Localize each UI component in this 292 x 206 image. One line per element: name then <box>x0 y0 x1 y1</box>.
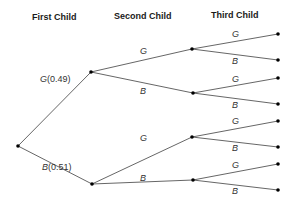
header-second-child: Second Child <box>114 11 172 21</box>
leaf-node <box>276 76 280 80</box>
label-third-child-g: G <box>232 29 239 39</box>
leaf-node <box>276 162 280 166</box>
second-child-node <box>191 91 195 95</box>
label-third-child-b: B <box>232 100 238 110</box>
second-child-node <box>190 47 194 51</box>
label-first-child-g: G(0.49) <box>40 74 71 84</box>
probability-tree-diagram: First Child Second Child Third Child G(0… <box>0 0 292 206</box>
root-node <box>16 144 20 148</box>
label-third-child-g: G <box>232 116 239 126</box>
first-child-node <box>89 70 93 74</box>
label-third-child-b: B <box>232 143 238 153</box>
leaf-node <box>276 119 280 123</box>
label-third-child-g: G <box>232 160 239 170</box>
second-child-node <box>190 135 194 139</box>
label-third-child-b: B <box>232 186 238 196</box>
label-first-child-b: B(0.51) <box>42 162 72 172</box>
label-third-child-b: B <box>232 56 238 66</box>
label-third-child-g: G <box>232 74 239 84</box>
leaf-node <box>276 188 280 192</box>
header-third-child: Third Child <box>211 10 259 20</box>
first-child-node <box>90 182 94 186</box>
label-second-child-b: B <box>140 86 146 96</box>
leaf-node <box>276 58 280 62</box>
second-child-node <box>191 178 195 182</box>
label-second-child-g: G <box>140 133 147 143</box>
label-second-child-b: B <box>140 173 146 183</box>
leaf-node <box>276 145 280 149</box>
header-first-child: First Child <box>32 12 77 22</box>
leaf-node <box>276 102 280 106</box>
label-second-child-g: G <box>140 46 147 56</box>
branch-labels: G(0.49)B(0.51)GBGBGBGBGBGB <box>40 29 239 196</box>
leaf-node <box>276 32 280 36</box>
